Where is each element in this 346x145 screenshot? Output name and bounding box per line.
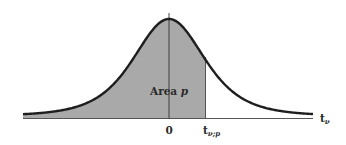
origin-tick-label: 0 xyxy=(166,124,173,136)
x-axis-label: tν xyxy=(320,112,330,126)
t-distribution-figure: Area p 0 tν;p tν xyxy=(0,0,346,145)
area-label: Area p xyxy=(149,85,189,97)
quantile-tick-label: tν;p xyxy=(203,124,220,138)
shaded-area-p xyxy=(23,19,206,119)
